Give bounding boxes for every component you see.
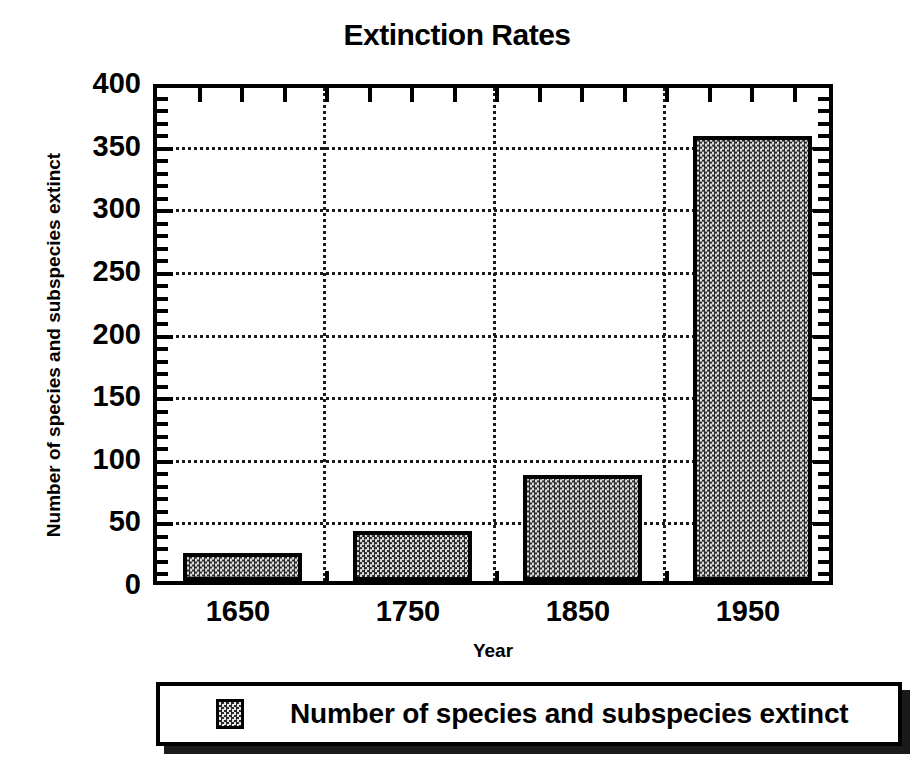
bar-1750[interactable] — [353, 531, 472, 581]
x-tick-label-1950: 1950 — [663, 597, 833, 626]
y-tick-label-250: 250 — [21, 257, 141, 286]
y-tick-left-240 — [157, 284, 168, 288]
y-tick-right-170 — [818, 372, 829, 376]
y-tick-left-90 — [157, 472, 168, 476]
y-tick-right-70 — [818, 497, 829, 501]
x-tick-top-5 — [368, 88, 372, 102]
y-tick-right-100 — [813, 460, 829, 464]
y-tick-left-220 — [157, 309, 168, 313]
x-tick-top-14 — [750, 88, 754, 102]
y-tick-left-360 — [157, 134, 168, 138]
y-tick-right-30 — [818, 547, 829, 551]
y-tick-left-230 — [157, 297, 168, 301]
y-tick-right-290 — [818, 222, 829, 226]
y-tick-left-150 — [157, 397, 173, 401]
y-tick-left-60 — [157, 510, 168, 514]
y-tick-left-290 — [157, 222, 168, 226]
y-tick-right-360 — [818, 134, 829, 138]
y-tick-right-380 — [818, 109, 829, 113]
y-tick-right-120 — [818, 435, 829, 439]
y-tick-left-20 — [157, 560, 168, 564]
x-tick-top-13 — [708, 88, 712, 102]
x-tick-bottom-12 — [665, 571, 669, 581]
y-tick-right-10 — [818, 572, 829, 576]
y-tick-right-50 — [813, 522, 829, 526]
y-tick-left-30 — [157, 547, 168, 551]
y-tick-right-130 — [818, 422, 829, 426]
y-tick-right-300 — [813, 209, 829, 213]
y-tick-left-260 — [157, 259, 168, 263]
y-tick-left-40 — [157, 535, 168, 539]
y-tick-right-230 — [818, 297, 829, 301]
y-tick-left-180 — [157, 360, 168, 364]
y-tick-right-150 — [813, 397, 829, 401]
category-divider-3 — [663, 88, 666, 581]
y-tick-left-370 — [157, 122, 168, 126]
plot-inner — [157, 88, 829, 581]
y-tick-left-140 — [157, 410, 168, 414]
y-tick-label-200: 200 — [21, 320, 141, 349]
chart-title: Extinction Rates — [0, 18, 914, 52]
y-tick-left-80 — [157, 485, 168, 489]
bar-1650[interactable] — [183, 553, 302, 581]
y-tick-right-90 — [818, 472, 829, 476]
y-tick-right-370 — [818, 122, 829, 126]
y-tick-label-50: 50 — [21, 507, 141, 536]
y-tick-left-70 — [157, 497, 168, 501]
chart-figure: Extinction Rates Number of species and s… — [0, 0, 914, 772]
y-tick-left-200 — [157, 335, 173, 339]
chart-legend: Number of species and subspecies extinct — [156, 682, 902, 746]
y-tick-right-310 — [818, 197, 829, 201]
y-tick-left-320 — [157, 184, 168, 188]
y-tick-right-110 — [818, 447, 829, 451]
y-tick-right-210 — [818, 322, 829, 326]
x-tick-label-1850: 1850 — [493, 597, 663, 626]
y-tick-label-0: 0 — [21, 570, 141, 599]
x-tick-top-11 — [623, 88, 627, 102]
y-tick-right-80 — [818, 485, 829, 489]
y-tick-right-60 — [818, 510, 829, 514]
x-tick-label-1750: 1750 — [323, 597, 493, 626]
x-tick-top-6 — [410, 88, 414, 102]
y-tick-right-390 — [818, 97, 829, 101]
y-tick-right-350 — [813, 147, 829, 151]
x-tick-top-4 — [325, 88, 329, 102]
y-tick-right-200 — [813, 335, 829, 339]
y-tick-left-300 — [157, 209, 173, 213]
y-tick-left-210 — [157, 322, 168, 326]
y-tick-right-340 — [818, 159, 829, 163]
y-tick-left-190 — [157, 347, 168, 351]
legend-label: Number of species and subspecies extinct — [290, 698, 848, 730]
x-tick-top-9 — [538, 88, 542, 102]
y-tick-left-340 — [157, 159, 168, 163]
legend-swatch-icon — [216, 699, 244, 729]
y-tick-right-220 — [818, 309, 829, 313]
y-tick-label-150: 150 — [21, 382, 141, 411]
y-tick-right-320 — [818, 184, 829, 188]
x-tick-top-2 — [240, 88, 244, 102]
y-tick-left-170 — [157, 372, 168, 376]
y-tick-right-40 — [818, 535, 829, 539]
x-axis-title: Year — [153, 640, 833, 662]
y-tick-left-350 — [157, 147, 173, 151]
plot-area — [153, 84, 833, 585]
y-tick-right-270 — [818, 247, 829, 251]
y-tick-label-300: 300 — [21, 194, 141, 223]
bar-1950[interactable] — [693, 136, 812, 581]
x-tick-bottom-8 — [495, 571, 499, 581]
y-tick-label-400: 400 — [21, 69, 141, 98]
y-tick-right-250 — [813, 272, 829, 276]
category-divider-1 — [323, 88, 326, 581]
x-axis-tick-labels: 1650175018501950 — [153, 597, 833, 637]
y-tick-left-120 — [157, 435, 168, 439]
y-tick-left-270 — [157, 247, 168, 251]
y-tick-right-260 — [818, 259, 829, 263]
y-tick-left-110 — [157, 447, 168, 451]
y-tick-left-130 — [157, 422, 168, 426]
y-tick-right-330 — [818, 172, 829, 176]
bar-1850[interactable] — [523, 475, 642, 581]
x-tick-top-8 — [495, 88, 499, 102]
y-tick-label-100: 100 — [21, 445, 141, 474]
y-axis-tick-labels: 400350300250200150100500 — [16, 84, 141, 585]
x-tick-top-15 — [793, 88, 797, 102]
